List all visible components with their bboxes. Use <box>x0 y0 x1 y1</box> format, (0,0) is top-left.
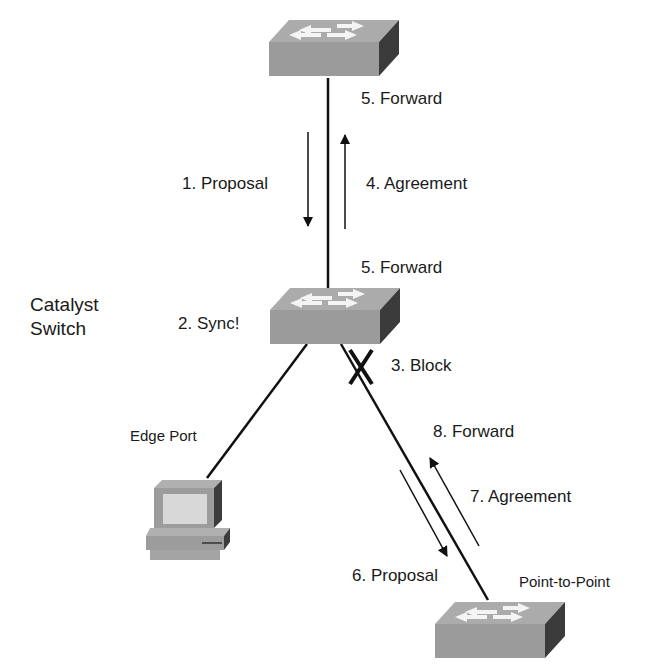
step-4-agreement: 4. Agreement <box>366 175 467 192</box>
step-3-block: 3. Block <box>391 357 451 374</box>
edge-pc-icon <box>146 480 230 560</box>
proposal-arrow-diagonal <box>400 470 447 556</box>
catalyst-switch-icon <box>270 288 400 344</box>
p2p-switch-icon <box>435 602 565 658</box>
edge-port-label: Edge Port <box>130 428 197 443</box>
link-catalyst-to-p2p <box>341 344 488 600</box>
step-6-proposal: 6. Proposal <box>352 567 438 584</box>
step-5-forward-bottom: 5. Forward <box>361 259 442 276</box>
point-to-point-label: Point-to-Point <box>519 574 610 589</box>
step-1-proposal: 1. Proposal <box>182 175 268 192</box>
catalyst-switch-label: Catalyst Switch <box>30 293 99 341</box>
step-8-forward: 8. Forward <box>433 423 514 440</box>
link-catalyst-to-edge <box>207 344 307 478</box>
top-switch-icon <box>269 20 399 76</box>
step-5-forward-top: 5. Forward <box>361 90 442 107</box>
step-2-sync: 2. Sync! <box>178 315 239 332</box>
step-7-agreement: 7. Agreement <box>470 488 571 505</box>
